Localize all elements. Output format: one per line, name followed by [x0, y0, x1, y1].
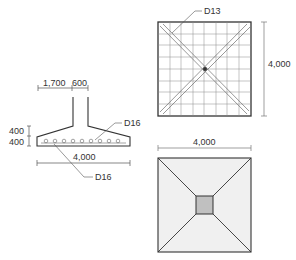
dim-height-lower-label: 400 [9, 137, 24, 147]
dim-left-label: 1,700 [43, 78, 66, 88]
rebar-bottom-label: D16 [95, 172, 112, 182]
center-node [203, 67, 207, 71]
dim-width-label: 4,000 [73, 152, 96, 162]
section-view: 1,700 600 400 400 4,000 [9, 78, 141, 182]
footing-plan-view: 4,000 [158, 137, 251, 252]
rebar-top-leader: D16 [95, 118, 141, 140]
footing-drawing: 1,700 600 400 400 4,000 [0, 0, 296, 260]
bottom-rebars [41, 139, 126, 143]
column-footprint [196, 196, 213, 214]
rebar-plan-height-label: 4,000 [268, 59, 291, 69]
section-top-dimension: 1,700 600 [38, 78, 88, 91]
section-height-dimension: 400 400 [9, 126, 31, 147]
rebar-plan-view: D13 4,000 [158, 6, 291, 116]
dim-column-label: 600 [72, 78, 87, 88]
rebar-top-label: D16 [124, 118, 141, 128]
rebar-plan-label: D13 [204, 6, 221, 16]
section-width-dimension: 4,000 [37, 152, 130, 166]
footing-section-outline [37, 97, 130, 146]
footing-plan-width-dimension: 4,000 [158, 137, 251, 151]
dim-height-upper-label: 400 [9, 126, 24, 136]
rebar-plan-height-dimension: 4,000 [261, 22, 291, 116]
footing-plan-width-label: 4,000 [193, 137, 216, 147]
